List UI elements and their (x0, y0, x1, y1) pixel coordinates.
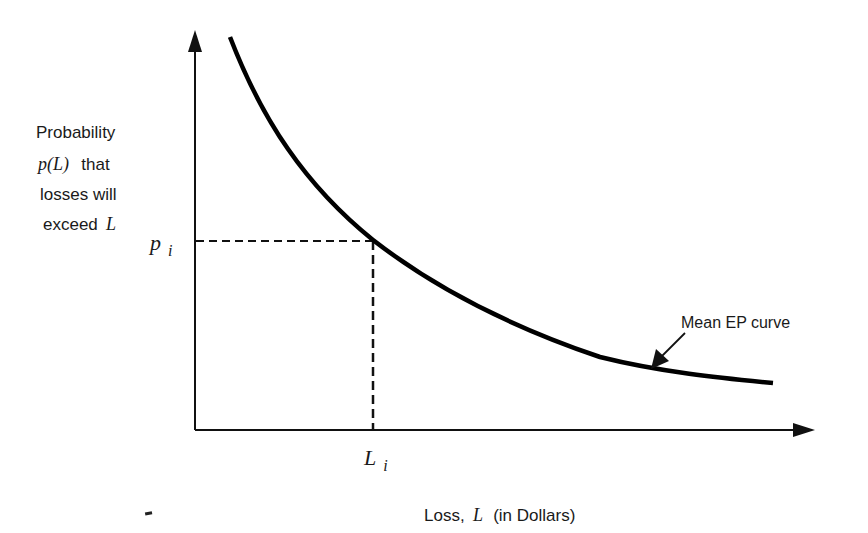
mean-ep-curve (230, 37, 773, 383)
y-label-line4: exceed L (43, 214, 116, 234)
x-axis-label: Loss, L (in Dollars) (424, 505, 575, 525)
stray-mark (145, 511, 152, 515)
l-i-marker: L i (363, 445, 388, 474)
x-axis (195, 423, 815, 437)
y-axis-arrow-icon (188, 30, 202, 52)
y-label-line2: p(L) that (36, 154, 110, 175)
p-i-marker: p i (148, 230, 172, 259)
y-label-line3: losses will (40, 185, 117, 204)
y-axis-label: Probability p(L) that losses will exceed… (36, 123, 117, 234)
x-axis-arrow-icon (793, 423, 815, 437)
curve-label-arrow-icon (651, 333, 685, 369)
ep-curve-diagram: Probability p(L) that losses will exceed… (0, 0, 868, 533)
y-label-line1: Probability (36, 123, 116, 142)
y-axis (188, 30, 202, 430)
mean-ep-curve-label: Mean EP curve (681, 314, 790, 331)
